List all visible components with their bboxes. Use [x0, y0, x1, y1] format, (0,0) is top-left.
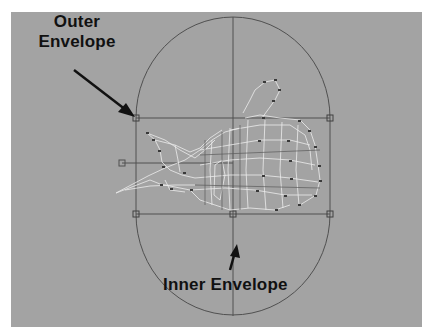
wireframe-mesh-dark	[195, 125, 320, 210]
outer-envelope-label-line1: Outer	[37, 12, 117, 32]
wireframe-mesh	[116, 80, 320, 210]
outer-envelope-label: Outer Envelope	[37, 12, 117, 52]
arrow-inner-envelope	[230, 244, 240, 270]
outer-envelope-label-line2: Envelope	[37, 32, 117, 52]
3d-viewport[interactable]: Outer Envelope Inner Envelope	[11, 12, 422, 327]
arrow-outer-envelope	[74, 70, 135, 117]
inner-envelope-label: Inner Envelope	[163, 275, 288, 295]
